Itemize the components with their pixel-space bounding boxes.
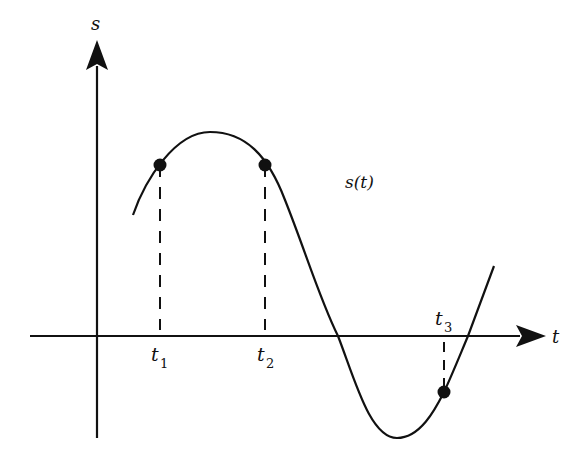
point-t1 <box>154 159 167 172</box>
position-time-graph: s t s(t) t 1 t 2 t 3 <box>0 0 586 472</box>
s-axis-arrow-icon <box>86 40 108 70</box>
point-t2 <box>259 159 272 172</box>
curve-label: s(t) <box>345 172 374 192</box>
s-axis <box>86 40 108 438</box>
t1-label: t 1 <box>151 343 168 371</box>
svg-text:2: 2 <box>266 356 274 371</box>
svg-text:t: t <box>435 307 443 329</box>
point-t3 <box>438 386 451 399</box>
t2-label: t 2 <box>257 343 274 371</box>
t3-label: t 3 <box>435 307 452 335</box>
svg-text:3: 3 <box>444 320 452 335</box>
t-axis-arrow-icon <box>516 325 546 347</box>
svg-text:t: t <box>151 343 159 365</box>
s-axis-label: s <box>91 13 100 34</box>
svg-text:1: 1 <box>160 356 168 371</box>
svg-text:t: t <box>257 343 265 365</box>
t-axis-label: t <box>552 326 560 347</box>
